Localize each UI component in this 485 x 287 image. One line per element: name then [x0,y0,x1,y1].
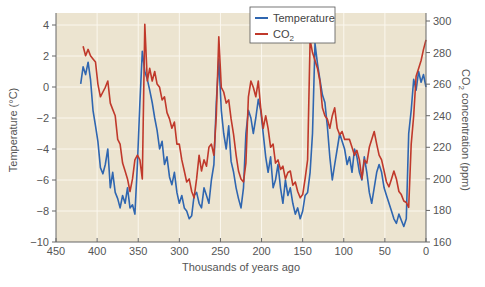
left-axis-ticks: 420−2−4−6−8−10 [30,19,56,248]
right-axis-title-prefix: CO [460,69,472,86]
right-tick-label: 160 [433,236,451,248]
x-tick-label: 150 [293,245,311,257]
left-tick-label: −6 [36,174,49,186]
co2-temperature-chart: 420−2−4−6−8−10 300280260240220200180160 … [0,0,485,287]
right-axis-ticks: 300280260240220200180160 [426,15,451,248]
x-axis-title: Thousands of years ago [182,261,300,273]
left-tick-label: 2 [43,50,49,62]
x-tick-label: 50 [379,245,391,257]
legend-temperature-label: Temperature [273,12,335,24]
x-tick-label: 300 [170,245,188,257]
right-tick-label: 240 [433,110,451,122]
left-tick-label: −2 [36,112,49,124]
x-tick-label: 200 [252,245,270,257]
x-tick-label: 450 [47,245,65,257]
left-tick-label: −4 [36,143,49,155]
right-tick-label: 300 [433,15,451,27]
right-tick-label: 200 [433,173,451,185]
left-axis-title: Temperature (°C) [7,88,19,172]
x-tick-label: 350 [129,245,147,257]
right-tick-label: 180 [433,204,451,216]
right-tick-label: 220 [433,141,451,153]
right-tick-label: 260 [433,78,451,90]
left-tick-label: 0 [43,81,49,93]
x-tick-label: 400 [88,245,106,257]
left-tick-label: −8 [36,205,49,217]
legend-co2-prefix: CO [273,28,290,40]
legend: Temperature CO2 [250,7,335,43]
x-tick-label: 250 [211,245,229,257]
x-tick-label: 100 [335,245,353,257]
x-tick-label: 0 [423,245,429,257]
right-axis-title-suffix: concentration (ppm) [460,90,472,191]
right-tick-label: 280 [433,47,451,59]
left-tick-label: 4 [43,19,49,31]
legend-co2-sub: 2 [290,34,295,43]
right-axis-title: CO2 concentration (ppm) [457,69,472,191]
